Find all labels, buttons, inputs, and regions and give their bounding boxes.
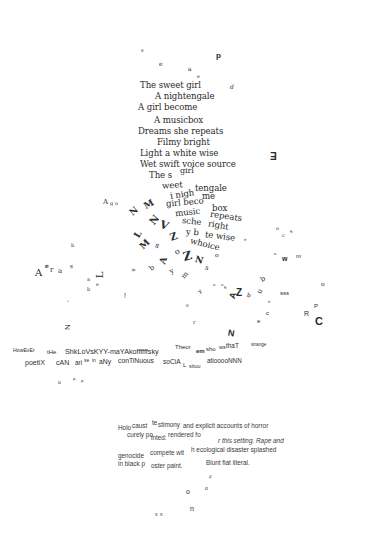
prose-fragment: te: [152, 419, 157, 426]
glyph: Z: [169, 231, 179, 243]
glyph: x: [160, 512, 163, 517]
glyph: s: [185, 304, 190, 307]
glyph: m: [181, 271, 191, 281]
glyph: o: [221, 283, 223, 287]
glyph: b: [71, 243, 74, 248]
wave-word: soCiA: [163, 358, 181, 365]
glyph: P: [81, 380, 84, 384]
prose-fragment: caust: [132, 422, 147, 429]
glyph: d: [230, 84, 234, 90]
glyph: b: [260, 275, 267, 283]
poem-fragment: The s: [149, 170, 172, 180]
prose-fragment: stimony: [158, 421, 180, 428]
glyph: s: [223, 285, 227, 291]
prose-fragment: compete wit: [150, 449, 184, 456]
poem-line: The sweet girl: [140, 80, 201, 90]
glyph: e: [45, 263, 49, 269]
glyph: s: [70, 264, 73, 270]
glyph: e: [257, 318, 260, 324]
glyph-mark: E: [270, 152, 277, 162]
glyph: !: [124, 292, 126, 299]
wave-word: situu: [189, 363, 200, 369]
glyph: e: [96, 282, 99, 287]
glyph: C: [315, 316, 323, 327]
glyph: V: [158, 219, 170, 232]
glyph: c: [282, 233, 285, 238]
glyph: o: [174, 247, 181, 256]
glyph: N: [64, 324, 72, 330]
glyph: o: [276, 226, 279, 231]
prose-fragment: and explicit accounts of horror: [183, 422, 268, 429]
glyph: N: [227, 329, 235, 339]
glyph: s: [131, 268, 137, 271]
glyph: b: [246, 292, 251, 299]
glyph: r: [193, 320, 195, 325]
glyph: N: [128, 205, 140, 217]
wave-word: ws: [219, 344, 226, 350]
poem-line: A girl become: [138, 102, 197, 112]
prose-fragment: rendered fo: [168, 431, 201, 438]
wave-word: em: [196, 348, 205, 354]
glyph: c: [266, 310, 269, 316]
wave-word: tHe: [47, 349, 56, 355]
wave-word: conTiNuous: [118, 357, 154, 364]
glyph: o: [274, 252, 276, 256]
glyph: R: [304, 310, 309, 317]
glyph: s: [208, 474, 213, 480]
glyph: s: [289, 229, 293, 235]
poem-line: Filmy bright: [157, 137, 210, 147]
glyph: o: [186, 488, 190, 495]
glyph: A: [103, 199, 108, 206]
wave-word: HowEvEr: [13, 347, 35, 353]
glyph: P: [314, 303, 318, 309]
poem-fragment: me: [202, 191, 215, 201]
glyph: e: [197, 74, 200, 79]
prose-fragment: genocide: [118, 452, 144, 459]
prose-fragment: oster paint.: [151, 462, 183, 469]
glyph: u: [58, 380, 61, 385]
glyph: e: [159, 61, 163, 67]
glyph: o: [115, 201, 118, 206]
glyph: s: [67, 300, 69, 303]
glyph: e: [268, 300, 270, 304]
glyph: L: [95, 272, 105, 279]
glyph: g: [110, 201, 113, 206]
wave-word: cAN: [56, 359, 69, 366]
glyph: w: [282, 255, 287, 262]
prose-fragment: inted:: [151, 434, 167, 441]
glyph: P: [73, 378, 76, 382]
glyph: a: [87, 277, 90, 282]
glyph: e: [244, 238, 246, 242]
glyph: M: [138, 238, 151, 251]
poem-line: A musicbox: [154, 115, 203, 125]
prose-fragment: Blunt flat literal.: [206, 459, 250, 466]
glyph: A: [35, 268, 42, 278]
glyph: Z: [182, 249, 194, 263]
wave-word: strange: [251, 342, 266, 347]
wave-word: thaT: [226, 342, 239, 349]
wave-word: atiooooNNN: [207, 357, 242, 364]
prose-fragment: r this setting. Rape and: [218, 437, 284, 444]
wave-word: L: [183, 362, 186, 368]
poem-fragment: sche: [182, 215, 202, 227]
glyph: sss: [280, 290, 289, 296]
prose-fragment: h ecological disaster splashed: [191, 446, 276, 453]
poem-line: A nightengale: [155, 91, 215, 101]
glyph: b: [148, 264, 156, 272]
glyph: s: [204, 265, 210, 273]
glyph: y: [169, 267, 176, 275]
glyph: A: [158, 256, 169, 266]
glyph: r: [50, 267, 53, 274]
poem-line: Dreams she repeats: [138, 126, 223, 136]
poem-line: Light a white wise: [140, 148, 218, 158]
prose-fragment: Holo: [118, 424, 131, 431]
glyph: p: [216, 52, 221, 60]
glyph: N: [194, 255, 204, 266]
wave-word: aNy: [99, 358, 111, 365]
prose-fragment: in black p: [118, 460, 145, 467]
glyph: o: [213, 283, 215, 287]
glyph: b: [87, 287, 90, 292]
wave-word: poetiX: [25, 359, 45, 366]
wave-word: Theor: [175, 344, 191, 350]
glyph: x: [155, 512, 158, 517]
